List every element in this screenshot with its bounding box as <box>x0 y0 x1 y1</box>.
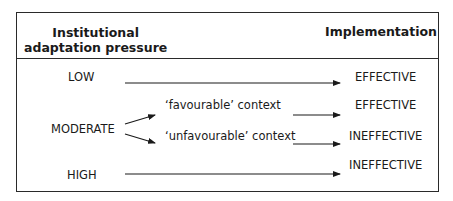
flow-arrows <box>0 0 453 201</box>
arrow-moderate-favourable <box>125 115 155 124</box>
arrow-moderate-unfavourable <box>125 134 155 143</box>
